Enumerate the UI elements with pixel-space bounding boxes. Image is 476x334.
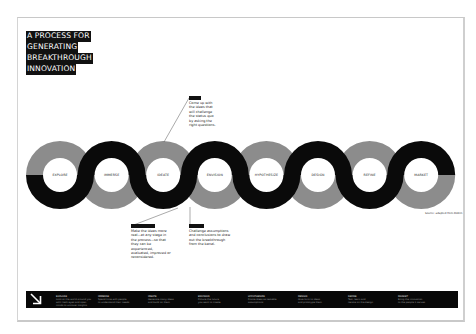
stage-label-envision: ENVISION [200, 173, 230, 177]
callout-immerse: Make the ideas more real—at any stage in… [131, 224, 171, 260]
footer-column-line: assumptions [248, 301, 277, 304]
footer-column-line: to understand their needs [98, 301, 129, 304]
footer-column-refine: REFINETest, learn anditerate on the desi… [348, 295, 373, 304]
footer-column-explore: EXPLORELook at the world around youwith … [56, 295, 91, 307]
stage-label-refine: REFINE [355, 173, 385, 177]
footer-column-line: iterate on the design [348, 301, 373, 304]
callout-ideate: Come up with the ideas that will challen… [189, 96, 217, 127]
ring-black-half-refine [336, 175, 404, 209]
process-diagram [0, 0, 476, 334]
footer-column-hypothesize: HYPOTHESIZEFrame ideas as testableassump… [248, 295, 277, 304]
callout-tag [189, 224, 204, 228]
footer-column-design: DESIGNGive form to ideasand prototype th… [298, 295, 322, 304]
callout-text: Come up with the ideas that will challen… [189, 101, 216, 127]
callout-connector-ideate-top [164, 98, 189, 142]
stage-label-hypothesize: HYPOTHESIZE [251, 173, 281, 177]
callout-text: Make the ideas more real—at any stage in… [131, 229, 171, 259]
callout-text: Challenge assumptions and conclusions to… [189, 229, 230, 246]
stage-label-ideate: IDEATE [148, 173, 178, 177]
stage-label-immerse: IMMERSE [97, 173, 127, 177]
ring-black-half-ideate [129, 175, 197, 209]
stage-label-market: MARKET [406, 173, 436, 177]
ring-black-half-design [284, 141, 352, 175]
footer-column-line: to the people it serves [398, 301, 425, 304]
footer-column-line: minds to uncover insights [56, 304, 91, 307]
callout-tag [131, 224, 155, 228]
callout-tag [189, 96, 201, 100]
footer-column-line: you want to create [198, 301, 221, 304]
ring-black-half-explore [26, 175, 94, 209]
stage-label-explore: EXPLORE [45, 173, 75, 177]
ring-black-half-market [387, 141, 455, 175]
arrow-down-right-icon [30, 293, 42, 305]
stage-label-design: DESIGN [303, 173, 333, 177]
footer-column-immerse: IMMERSESpend time with peopleto understa… [98, 295, 129, 304]
footer-column-ideate: IDEATEGenerate many ideasand build on th… [148, 295, 174, 304]
footer-column-line: and build on them [148, 301, 174, 304]
footer-bar: EXPLORELook at the world around youwith … [26, 291, 458, 308]
source-credit: Source: adapted from Doblin [425, 212, 462, 215]
footer-column-line: and prototype them [298, 301, 322, 304]
ring-black-half-immerse [78, 141, 146, 175]
callout-envision: Challenge assumptions and conclusions to… [189, 224, 233, 247]
footer-column-market: MARKETBring the innovationto the people … [398, 295, 425, 304]
footer-column-envision: ENVISIONPicture the futureyou want to cr… [198, 295, 221, 304]
ring-black-half-envision [181, 141, 249, 175]
ring-black-half-hypothesize [232, 175, 300, 209]
